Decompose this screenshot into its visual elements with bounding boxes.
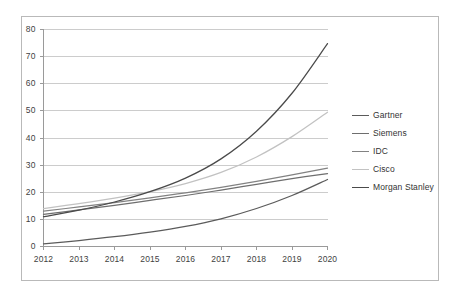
x-axis-label-2018: 2018	[240, 254, 274, 264]
series-lines	[44, 44, 328, 244]
series-line-gartner	[44, 180, 328, 244]
line-chart-figure: 01020304050607080 2012201320142015201620…	[0, 0, 460, 297]
x-axis-label-2017: 2017	[204, 254, 238, 264]
legend-item-siemens[interactable]: Siemens	[352, 124, 444, 142]
series-line-morgan-stanley	[44, 44, 328, 217]
axis-lines	[40, 30, 328, 251]
legend-swatch-cisco	[352, 169, 369, 170]
y-axis-label-70: 70	[16, 51, 36, 61]
legend-item-morgan-stanley[interactable]: Morgan Stanley	[352, 178, 444, 196]
legend-label: IDC	[373, 146, 388, 156]
series-line-cisco	[44, 112, 328, 208]
legend-swatch-morgan-stanley	[352, 187, 369, 188]
x-axis-label-2014: 2014	[98, 254, 132, 264]
legend-item-gartner[interactable]: Gartner	[352, 106, 444, 124]
legend-label: Morgan Stanley	[373, 182, 434, 192]
y-axis-label-80: 80	[16, 24, 36, 34]
chart-legend: GartnerSiemensIDCCiscoMorgan Stanley	[352, 106, 444, 196]
x-axis-label-2013: 2013	[62, 254, 96, 264]
y-axis-label-60: 60	[16, 78, 36, 88]
x-axis-label-2016: 2016	[169, 254, 203, 264]
x-axis-label-2015: 2015	[133, 254, 167, 264]
y-axis-label-0: 0	[16, 241, 36, 251]
y-axis-label-20: 20	[16, 187, 36, 197]
x-axis-label-2012: 2012	[27, 254, 61, 264]
legend-swatch-idc	[352, 151, 369, 152]
legend-item-idc[interactable]: IDC	[352, 142, 444, 160]
series-line-idc	[44, 168, 328, 211]
y-axis-label-30: 30	[16, 160, 36, 170]
x-axis-label-2020: 2020	[311, 254, 345, 264]
y-axis-label-50: 50	[16, 105, 36, 115]
y-axis-label-40: 40	[16, 133, 36, 143]
legend-label: Gartner	[373, 110, 403, 120]
legend-item-cisco[interactable]: Cisco	[352, 160, 444, 178]
legend-label: Siemens	[373, 128, 407, 138]
legend-swatch-siemens	[352, 133, 369, 134]
y-axis-label-10: 10	[16, 214, 36, 224]
x-axis-label-2019: 2019	[275, 254, 309, 264]
gridlines	[44, 30, 328, 247]
legend-label: Cisco	[373, 164, 395, 174]
legend-swatch-gartner	[352, 115, 369, 116]
